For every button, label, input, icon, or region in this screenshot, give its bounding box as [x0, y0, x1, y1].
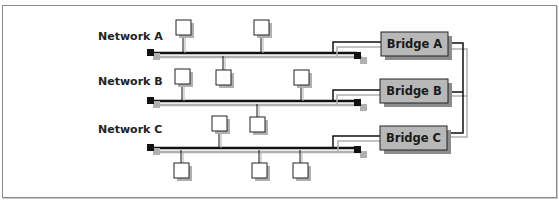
bridge-a: Bridge A [381, 32, 452, 60]
terminator-shadow [153, 148, 160, 155]
network-a-label: Network A [98, 30, 163, 43]
terminator-shadow [153, 53, 160, 60]
host [252, 150, 270, 181]
network-b-terminator-right [354, 99, 361, 106]
terminator-shadow [360, 104, 367, 111]
host [250, 104, 268, 135]
host [293, 150, 311, 181]
terminator-shadow [360, 57, 367, 64]
network-c-terminator-right [354, 146, 361, 153]
network-b-terminator-left [147, 97, 154, 104]
host [174, 150, 192, 181]
host [294, 70, 312, 101]
terminator-shadow [360, 151, 367, 158]
network-c-terminator-left [147, 144, 154, 151]
host [216, 56, 234, 88]
network-a-terminator-right [354, 52, 361, 59]
bridge-a-label: Bridge A [387, 37, 443, 51]
network-c: Network C [98, 104, 382, 181]
network-a: Network A [98, 20, 382, 64]
network-a-terminator-left [147, 49, 154, 56]
network-b-label: Network B [98, 75, 163, 88]
host [212, 116, 230, 148]
network-c-label: Network C [98, 123, 162, 136]
terminator-shadow [153, 101, 160, 108]
network-b: Network B [98, 56, 382, 111]
host [176, 20, 194, 53]
bridge-b-label: Bridge B [386, 84, 441, 98]
bridge-b: Bridge B [380, 79, 452, 107]
host [175, 69, 193, 101]
host [254, 20, 272, 53]
bridge-c-label: Bridge C [386, 131, 441, 145]
network-diagram: Network A Network B [0, 0, 559, 203]
bridge-c: Bridge C [380, 126, 451, 154]
